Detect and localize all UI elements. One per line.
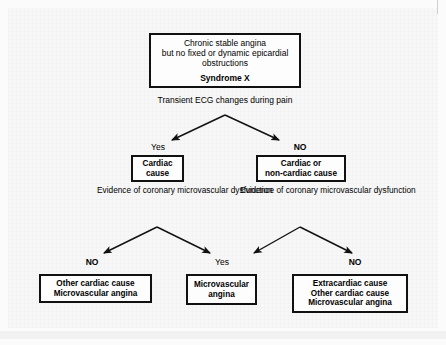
node-cardiac-or-non-cardiac-cause: Cardiac or non-cardiac cause <box>256 155 346 182</box>
branch-2-label-yes-left: Yes <box>203 257 241 267</box>
criterion-left-line-2: coronary microvascular <box>143 185 229 195</box>
criterion-transient-ecg: Transient ECG changes during pain <box>125 95 325 105</box>
node-cardiac-cause: Cardiac cause <box>131 155 184 182</box>
branch-1-arrows <box>172 115 279 140</box>
outcome-left-line-2: Microvascular angina <box>54 289 138 299</box>
outcome-middle-line-2: angina <box>208 290 234 300</box>
branch-1-label-yes: Yes <box>136 142 180 152</box>
criterion-right-line-3: dysfunction <box>374 185 416 195</box>
criterion-right-line-1: Evidence of <box>240 185 283 195</box>
node-syndrome-x-line-3: obstructions <box>202 58 248 68</box>
outcome-right-line-3: Microvascular angina <box>308 298 392 308</box>
node-syndrome-x: Chronic stable angina but no fixed or dy… <box>149 33 301 88</box>
page-edge-right <box>437 0 438 14</box>
outcome-microvascular-angina: Microvascular angina <box>186 274 257 305</box>
node-cardiac-cause-line-1: Cardiac <box>142 159 172 169</box>
node-syndrome-x-line-2: but no fixed or dynamic epicardial <box>162 48 289 58</box>
node-syndrome-x-emphasis: Syndrome X <box>200 73 250 83</box>
branch-2-label-no-left: NO <box>73 257 111 267</box>
outcome-left-line-1: Other cardiac cause <box>56 279 134 289</box>
criterion-microvascular-dysfunction-left: Evidence of coronary microvascular dysfu… <box>97 186 219 196</box>
page-edge-bottom <box>0 331 446 339</box>
outcome-right-line-1: Extracardiac cause <box>313 279 388 289</box>
node-cardiac-or-non-cardiac-line-1: Cardiac or <box>281 159 322 169</box>
criterion-right-line-2: coronary microvascular <box>286 185 372 195</box>
branch-1-label-no: NO <box>278 142 322 152</box>
outcome-other-cardiac-cause: Other cardiac cause Microvascular angina <box>39 274 152 303</box>
branch-2-right-arrows <box>254 227 352 253</box>
outcome-right-line-2: Other cardiac cause <box>311 289 389 299</box>
outcome-middle-line-1: Microvascular <box>194 280 249 290</box>
node-cardiac-or-non-cardiac-line-2: non-cardiac cause <box>265 169 337 179</box>
branch-2-left-arrows <box>104 227 210 253</box>
node-cardiac-cause-line-2: cause <box>146 169 169 179</box>
branch-2-label-no-right: NO <box>336 257 374 267</box>
node-syndrome-x-line-1: Chronic stable angina <box>184 38 266 48</box>
criterion-left-line-1: Evidence of <box>97 185 140 195</box>
criterion-microvascular-dysfunction-right: Evidence of coronary microvascular dysfu… <box>240 186 362 196</box>
outcome-extracardiac-cause: Extracardiac cause Other cardiac cause M… <box>292 274 408 313</box>
flowchart-canvas: Chronic stable angina but no fixed or dy… <box>0 0 446 345</box>
